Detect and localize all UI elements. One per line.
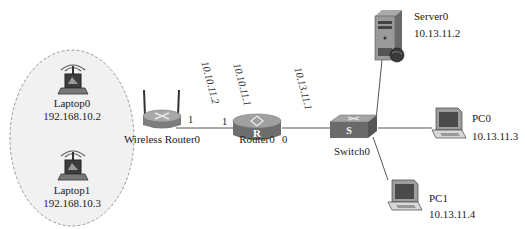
pc0-ip: 10.13.11.3 bbox=[472, 130, 518, 143]
laptop0-ip: 192.168.10.2 bbox=[43, 110, 101, 123]
wireless-router-icon bbox=[141, 88, 183, 130]
switch0-name: Switch0 bbox=[334, 145, 370, 158]
pc1-name: PC1 bbox=[429, 192, 448, 205]
link-switch-server bbox=[376, 60, 382, 120]
pc1-ip: 10.13.11.4 bbox=[429, 208, 475, 221]
wireless-router0-node[interactable] bbox=[141, 88, 183, 134]
wireless-laptop-icon bbox=[56, 62, 90, 98]
server-icon bbox=[372, 8, 408, 64]
pc-icon bbox=[428, 106, 468, 142]
switch-badge: S bbox=[346, 125, 352, 136]
pc1-node[interactable] bbox=[384, 178, 424, 218]
switch0-node[interactable]: S bbox=[328, 114, 378, 148]
laptop1-name: Laptop1 bbox=[54, 184, 91, 197]
wrouter0-port-label: 1 bbox=[188, 114, 193, 125]
server0-ip: 10.13.11.2 bbox=[414, 27, 460, 40]
pc0-node[interactable] bbox=[428, 106, 468, 146]
laptop1-ip: 192.168.10.3 bbox=[43, 197, 101, 210]
server0-name: Server0 bbox=[414, 10, 448, 23]
server0-node[interactable] bbox=[372, 8, 408, 68]
router0-name: Router0 bbox=[239, 133, 274, 146]
laptop0-node[interactable] bbox=[56, 62, 90, 102]
pc0-name: PC0 bbox=[472, 112, 491, 125]
laptop0-name: Laptop0 bbox=[54, 97, 91, 110]
pc-icon bbox=[384, 178, 424, 214]
router0-left-port-label: 1 bbox=[222, 116, 227, 127]
wireless-laptop-icon bbox=[56, 148, 90, 184]
router0-right-port-label: 0 bbox=[282, 134, 287, 145]
switch-icon: S bbox=[328, 114, 378, 144]
wireless-router0-name: Wireless Router0 bbox=[124, 133, 200, 146]
laptop1-node[interactable] bbox=[56, 148, 90, 188]
